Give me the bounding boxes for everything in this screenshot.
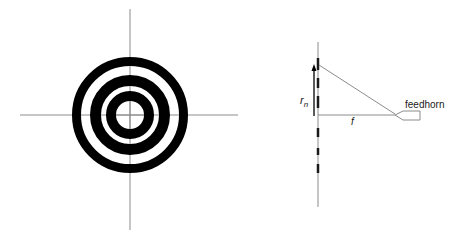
ray-diagonal [319,65,395,114]
zone-plate-front-view [20,9,238,230]
focal-length-label: f [351,116,355,127]
zone-plate-side-view: rn f feedhorn [300,42,444,207]
radius-arrow [312,64,317,116]
diagram-canvas: rn f feedhorn [0,0,463,242]
feedhorn-icon [395,111,420,120]
feedhorn-label: feedhorn [405,99,444,110]
arrowhead-icon [312,64,317,71]
radius-label: rn [300,94,309,109]
